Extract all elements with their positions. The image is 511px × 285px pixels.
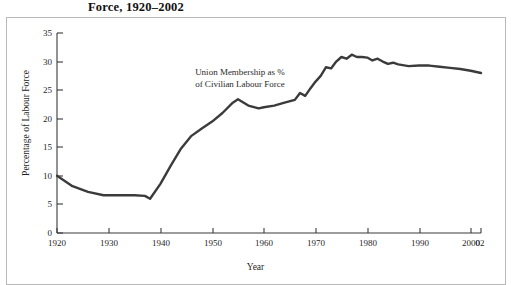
x-tick-label-1930: 1930	[89, 238, 129, 248]
y-axis-label: Percentage of Labour Force	[21, 63, 31, 183]
series-annotation-line-2: of Civilian Labour Force	[170, 78, 310, 90]
y-axis-group	[57, 33, 63, 233]
x-axis-group	[57, 228, 481, 233]
y-tick-label-10: 10	[34, 171, 52, 181]
x-tick-label-1920: 1920	[37, 238, 77, 248]
x-tick-label-1960: 1960	[244, 238, 284, 248]
y-tick-label-20: 20	[34, 114, 52, 124]
y-tick-label-30: 30	[34, 57, 52, 67]
x-axis-label: Year	[0, 262, 511, 272]
series-annotation: Union Membership as % of Civilian Labour…	[170, 66, 310, 90]
x-tick-label-1980: 1980	[348, 238, 388, 248]
y-tick-label-0: 0	[34, 228, 52, 238]
y-tick-label-5: 5	[34, 199, 52, 209]
y-tick-label-35: 35	[34, 28, 52, 38]
x-tick-label-1990: 1990	[400, 238, 440, 248]
y-tick-label-15: 15	[34, 142, 52, 152]
series-annotation-line-1: Union Membership as %	[170, 66, 310, 78]
y-tick-label-25: 25	[34, 85, 52, 95]
x-tick-label-1970: 1970	[296, 238, 336, 248]
x-tick-label-2002: 02	[467, 238, 493, 248]
x-tick-label-1940: 1940	[141, 238, 181, 248]
x-tick-label-1950: 1950	[193, 238, 233, 248]
